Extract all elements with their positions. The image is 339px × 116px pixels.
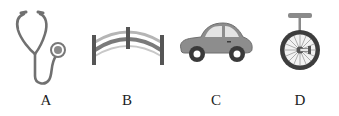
option-c[interactable]: C	[170, 0, 255, 116]
option-label-d: D	[290, 92, 310, 109]
option-label-c: C	[206, 92, 226, 109]
stethoscope-icon	[10, 4, 80, 89]
option-label-b: B	[117, 92, 137, 109]
option-b[interactable]: B	[85, 0, 170, 116]
unicycle-icon	[277, 5, 327, 75]
option-a[interactable]: A	[0, 0, 85, 116]
arch-bridge-icon	[88, 20, 168, 70]
car-icon	[175, 15, 255, 65]
option-d[interactable]: D	[255, 0, 339, 116]
option-label-a: A	[36, 92, 56, 109]
